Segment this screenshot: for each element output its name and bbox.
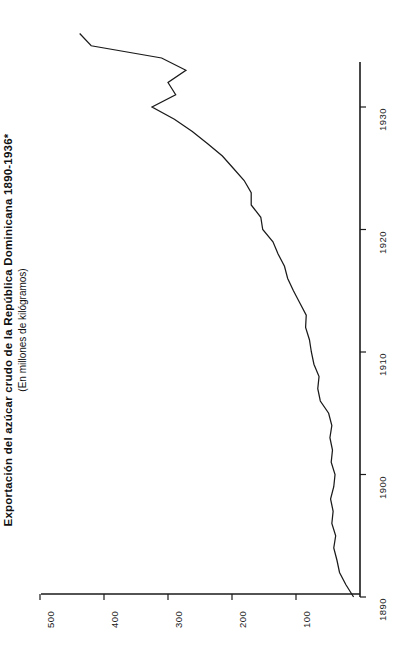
year-tick-label: 1910 bbox=[377, 353, 388, 376]
value-tick-label: 400 bbox=[109, 611, 120, 628]
value-tick-label: 500 bbox=[45, 611, 56, 628]
year-tick-label: 1890 bbox=[377, 598, 388, 621]
value-tick-label: 300 bbox=[173, 611, 184, 628]
year-axis-ticks bbox=[360, 107, 366, 597]
value-axis-ticks bbox=[40, 594, 296, 600]
chart-svg bbox=[0, 0, 403, 660]
value-tick-label: 200 bbox=[237, 611, 248, 628]
chart-page: Exportación del azúcar crudo de la Repúb… bbox=[0, 0, 403, 660]
data-series-line bbox=[80, 34, 354, 598]
chart-plot-area bbox=[0, 0, 403, 660]
value-tick-label: 100 bbox=[301, 611, 312, 628]
year-tick-label: 1930 bbox=[377, 108, 388, 131]
year-tick-label: 1920 bbox=[377, 230, 388, 253]
year-tick-label: 1900 bbox=[377, 475, 388, 498]
